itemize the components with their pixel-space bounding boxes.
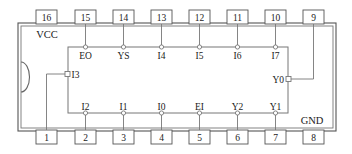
pin-number-label: 11 — [233, 13, 242, 23]
connector-square-icon — [286, 77, 291, 82]
signal-label-eo: EO — [79, 51, 92, 61]
pin-number-label: 3 — [121, 133, 126, 143]
signal-label-i3: I3 — [72, 70, 80, 80]
pin-number-label: 9 — [311, 13, 316, 23]
signal-label-i1: I1 — [120, 102, 128, 112]
signal-label-y0: Y0 — [272, 75, 284, 85]
pin-number-label: 7 — [273, 133, 278, 143]
pin-number-label: 12 — [195, 13, 205, 23]
signal-label-i2: I2 — [82, 102, 90, 112]
connector-circle-icon — [235, 45, 239, 49]
pin-8: 8 — [303, 130, 324, 144]
signal-label-ys: YS — [117, 51, 129, 61]
signal-label-y2: Y2 — [232, 102, 244, 112]
pin-number-label: 16 — [42, 13, 52, 23]
connector-circle-icon — [83, 45, 87, 49]
pin-number-label: 5 — [197, 133, 202, 143]
pin-16: 16 — [36, 10, 57, 24]
pin-number-label: 10 — [271, 13, 281, 23]
connector-circle-icon — [159, 45, 163, 49]
vcc-label: VCC — [36, 29, 58, 40]
signal-label-ei: EI — [195, 102, 204, 112]
schematic-canvas: 16 15 14 13 12 — [0, 0, 352, 154]
pin-number-label: 1 — [44, 133, 49, 143]
signal-label-i0: I0 — [158, 102, 166, 112]
pin-number-label: 4 — [159, 133, 164, 143]
gnd-label: GND — [301, 115, 324, 126]
signal-label-i4: I4 — [158, 51, 166, 61]
signal-label-i6: I6 — [234, 51, 242, 61]
signal-label-y1: Y1 — [270, 102, 282, 112]
connector-circle-icon — [273, 45, 277, 49]
connector-square-icon — [65, 72, 70, 77]
pin-number-label: 13 — [157, 13, 167, 23]
pin-number-label: 6 — [235, 133, 240, 143]
signal-label-i5: I5 — [196, 51, 204, 61]
pin-number-label: 15 — [81, 13, 91, 23]
connector-circle-icon — [197, 45, 201, 49]
connector-circle-icon — [121, 45, 125, 49]
signal-label-i7: I7 — [272, 51, 280, 61]
pin-number-label: 2 — [83, 133, 88, 143]
pin-number-label: 8 — [311, 133, 316, 143]
pin-number-label: 14 — [119, 13, 129, 23]
ic-pinout-diagram: 16 15 14 13 12 — [0, 0, 352, 154]
